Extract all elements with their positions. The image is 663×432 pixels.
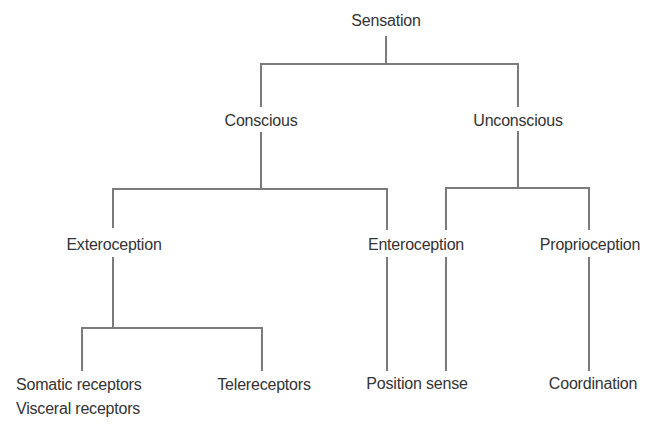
node-coordination: Coordination <box>549 375 637 393</box>
node-position-sense: Position sense <box>366 375 467 393</box>
node-proprioception: Proprioception <box>540 236 640 254</box>
node-sensation: Sensation <box>351 12 420 30</box>
node-telereceptors: Telereceptors <box>217 376 310 394</box>
node-exteroception: Exteroception <box>66 236 161 254</box>
node-unconscious: Unconscious <box>473 112 562 130</box>
node-visceral-receptors: Visceral receptors <box>16 400 140 418</box>
node-conscious: Conscious <box>225 112 298 130</box>
sensation-tree-diagram: Sensation Conscious Unconscious Exteroce… <box>0 0 663 432</box>
connector-lines <box>0 0 663 432</box>
node-enteroception: Enteroception <box>368 236 464 254</box>
node-somatic-receptors: Somatic receptors <box>16 376 142 394</box>
